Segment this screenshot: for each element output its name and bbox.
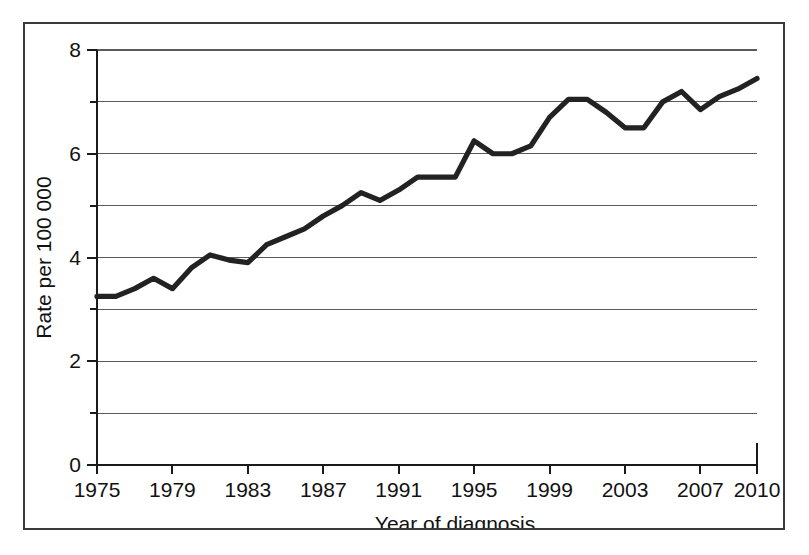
x-tick-label-2010: 2010	[734, 478, 781, 501]
x-axis-tick-labels: 1975197919831987199119951999200320072010	[74, 478, 781, 501]
x-tick-label-1987: 1987	[300, 478, 347, 501]
y-axis-tick-labels: 02468	[69, 38, 81, 476]
figure-border-frame: 1975197919831987199119951999200320072010…	[23, 22, 785, 530]
x-tick-label-2003: 2003	[602, 478, 649, 501]
x-tick-label-1995: 1995	[451, 478, 498, 501]
figure-root: 1975197919831987199119951999200320072010…	[0, 0, 809, 555]
x-tick-label-1991: 1991	[375, 478, 422, 501]
y-tick-label-2: 2	[69, 349, 81, 372]
y-tick-label-8: 8	[69, 38, 81, 61]
y-tick-label-6: 6	[69, 142, 81, 165]
x-tick-label-1979: 1979	[149, 478, 196, 501]
x-tick-label-2007: 2007	[677, 478, 724, 501]
line-chart-plot: 1975197919831987199119951999200320072010…	[25, 24, 783, 528]
x-tick-label-1975: 1975	[74, 478, 121, 501]
x-tick-label-1999: 1999	[526, 478, 573, 501]
x-tick-label-1983: 1983	[224, 478, 271, 501]
y-axis-tick-marks	[87, 50, 97, 465]
data-series-line	[97, 79, 757, 297]
y-tick-label-4: 4	[69, 246, 81, 269]
y-tick-label-0: 0	[69, 453, 81, 476]
x-axis-tick-marks	[97, 465, 757, 474]
y-axis-title: Rate per 100 000	[32, 176, 55, 338]
x-axis-title: Year of diagnosis	[375, 512, 535, 528]
